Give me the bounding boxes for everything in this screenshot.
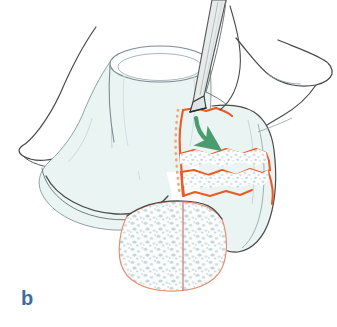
surgical-illustration	[0, 0, 337, 327]
figure-panel: b	[0, 0, 337, 327]
panel-label: b	[21, 288, 33, 308]
